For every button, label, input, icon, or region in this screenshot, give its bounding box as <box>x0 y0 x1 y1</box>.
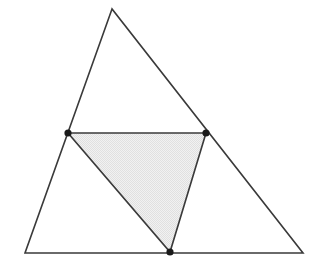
geometric-figure-svg <box>0 0 323 271</box>
point-right <box>202 129 209 136</box>
figure-canvas <box>0 0 323 271</box>
point-left <box>64 129 71 136</box>
point-bottom <box>166 248 173 255</box>
